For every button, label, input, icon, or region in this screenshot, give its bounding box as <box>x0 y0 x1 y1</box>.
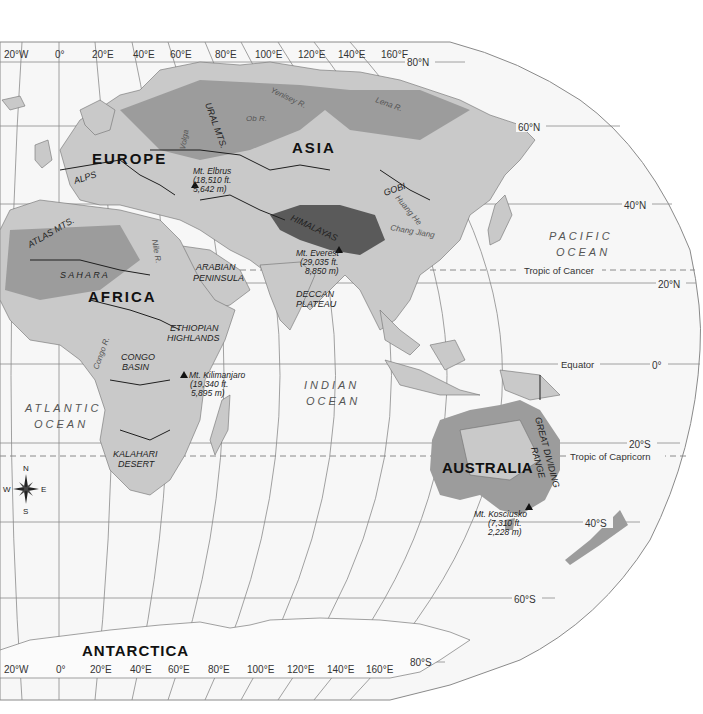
svg-text:60°E: 60°E <box>170 49 192 60</box>
compass-e: E <box>41 485 46 494</box>
svg-text:ASIA: ASIA <box>292 139 336 156</box>
svg-text:120°E: 120°E <box>298 49 326 60</box>
peak-elbrus: Mt. Elbrus (18,510 ft. 5,642 m) <box>191 166 232 194</box>
svg-text:0°: 0° <box>55 49 65 60</box>
svg-text:160°E: 160°E <box>381 49 409 60</box>
svg-text:DECCAN: DECCAN <box>296 289 335 299</box>
svg-text:20°W: 20°W <box>4 49 29 60</box>
compass-n: N <box>23 464 29 473</box>
svg-text:80°E: 80°E <box>208 664 230 675</box>
svg-text:40°S: 40°S <box>585 518 607 529</box>
svg-text:100°E: 100°E <box>255 49 283 60</box>
svg-text:HIGHLANDS: HIGHLANDS <box>167 333 220 343</box>
svg-text:40°N: 40°N <box>624 200 646 211</box>
svg-text:DESERT: DESERT <box>118 459 156 469</box>
svg-text:OCEAN: OCEAN <box>556 246 610 258</box>
svg-text:20°N: 20°N <box>658 279 680 290</box>
svg-text:20°W: 20°W <box>4 664 29 675</box>
svg-text:80°N: 80°N <box>407 57 429 68</box>
svg-text:PENINSULA: PENINSULA <box>193 273 244 283</box>
svg-text:Ob R.: Ob R. <box>246 114 267 123</box>
svg-text:ETHIOPIAN: ETHIOPIAN <box>170 323 219 333</box>
svg-text:20°E: 20°E <box>90 664 112 675</box>
svg-text:S A H A R A: S A H A R A <box>60 270 108 280</box>
svg-text:AFRICA: AFRICA <box>88 288 157 305</box>
svg-text:Tropic of Cancer: Tropic of Cancer <box>524 265 594 276</box>
svg-text:20°S: 20°S <box>629 439 651 450</box>
svg-text:EUROPE: EUROPE <box>92 150 167 167</box>
svg-text:40°E: 40°E <box>130 664 152 675</box>
svg-text:80°E: 80°E <box>215 49 237 60</box>
compass-w: W <box>3 485 11 494</box>
svg-text:Equator: Equator <box>561 359 594 370</box>
svg-text:60°N: 60°N <box>518 122 540 133</box>
svg-text:OCEAN: OCEAN <box>34 418 88 430</box>
svg-text:BASIN: BASIN <box>122 362 150 372</box>
svg-text:120°E: 120°E <box>287 664 315 675</box>
svg-text:20°E: 20°E <box>92 49 114 60</box>
svg-text:ANTARCTICA: ANTARCTICA <box>82 642 189 659</box>
compass-s: S <box>23 507 28 516</box>
hemisphere-map: 20°W 0° 20°E 40°E 60°E 80°E 100°E 120°E … <box>0 0 703 714</box>
svg-text:PLATEAU: PLATEAU <box>296 299 337 309</box>
svg-text:AUSTRALIA: AUSTRALIA <box>442 459 533 476</box>
svg-text:100°E: 100°E <box>247 664 275 675</box>
svg-text:PACIFIC: PACIFIC <box>549 230 613 242</box>
svg-text:KALAHARI: KALAHARI <box>113 449 158 459</box>
svg-text:140°E: 140°E <box>327 664 355 675</box>
svg-text:60°E: 60°E <box>168 664 190 675</box>
svg-text:ATLANTIC: ATLANTIC <box>24 402 101 414</box>
svg-text:160°E: 160°E <box>366 664 394 675</box>
svg-text:40°E: 40°E <box>133 49 155 60</box>
svg-text:80°S: 80°S <box>410 657 432 668</box>
svg-text:CONGO: CONGO <box>121 352 155 362</box>
svg-text:ARABIAN: ARABIAN <box>195 262 236 272</box>
svg-text:OCEAN: OCEAN <box>306 395 360 407</box>
svg-text:0°: 0° <box>652 360 662 371</box>
svg-text:5,895 m): 5,895 m) <box>191 388 225 398</box>
svg-text:8,850 m): 8,850 m) <box>305 266 339 276</box>
svg-text:0°: 0° <box>56 664 66 675</box>
svg-text:5,642 m): 5,642 m) <box>193 184 227 194</box>
svg-text:Tropic of Capricorn: Tropic of Capricorn <box>570 451 650 462</box>
svg-text:60°S: 60°S <box>514 594 536 605</box>
svg-text:140°E: 140°E <box>338 49 366 60</box>
svg-text:INDIAN: INDIAN <box>304 379 359 391</box>
svg-text:2,228 m): 2,228 m) <box>487 527 522 537</box>
